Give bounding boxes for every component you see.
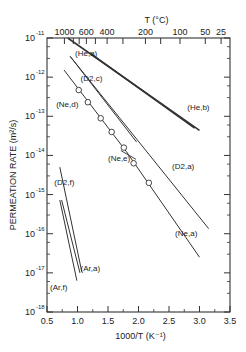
series-label: (He,b)	[187, 103, 210, 112]
data-point-marker	[121, 145, 127, 151]
y-tick-exponent: -13	[36, 108, 45, 114]
series-label: (D2,a)	[172, 162, 195, 171]
x-tick-label: 1.0	[71, 316, 84, 326]
y-axis-label: PERMEATION RATE (m²/s)	[8, 120, 18, 231]
series-label: (D2,f)	[54, 178, 74, 187]
y-tick-exponent: -17	[36, 265, 45, 271]
permeation-chart: 0.51.01.52.02.53.03.51000/T (K⁻¹)10-1110…	[0, 0, 246, 352]
series-label: (He,a)	[75, 49, 98, 58]
series-line	[62, 200, 80, 273]
data-point-marker	[146, 180, 152, 186]
data-point-marker	[76, 87, 82, 93]
y-tick-label: 10	[25, 190, 35, 200]
data-point-marker	[109, 129, 115, 135]
plot-labels: (He,a)(He,b)(D2,c)(D2,a)(Ne,d)(Ne,e)(Ne,…	[50, 49, 210, 293]
x-tick-label: 0.5	[41, 316, 54, 326]
series-label: (D2,c)	[81, 74, 103, 83]
series-label: (Ar,f)	[50, 283, 68, 292]
series-line	[90, 53, 195, 128]
y-tick-label: 10	[25, 229, 35, 239]
y-tick-exponent: -18	[36, 304, 45, 310]
top-axis-label: T (°C)	[145, 15, 169, 25]
top-tick-label: 400	[100, 27, 115, 37]
y-tick-label: 10	[25, 150, 35, 160]
top-tick-label: 200	[138, 27, 153, 37]
x-tick-label: 3.0	[193, 316, 206, 326]
x-axis-label: 1000/T (K⁻¹)	[115, 331, 165, 341]
y-tick-exponent: -11	[36, 30, 45, 36]
series-line	[60, 200, 77, 281]
series-label: (Ne,e)	[108, 154, 131, 163]
data-point-marker	[98, 115, 104, 121]
top-tick-label: 50	[200, 27, 210, 37]
y-tick-label: 10	[25, 268, 35, 278]
data-point-marker	[85, 99, 91, 105]
series-label: (Ar,a)	[81, 264, 101, 273]
y-tick-label: 10	[25, 33, 35, 43]
data-point-marker	[131, 160, 137, 166]
y-tick-exponent: -14	[36, 147, 45, 153]
y-tick-exponent: -16	[36, 226, 45, 232]
series-label: (Ne,d)	[56, 100, 79, 109]
y-tick-exponent: -12	[36, 69, 45, 75]
x-tick-label: 2.5	[163, 316, 176, 326]
plot-axes: 0.51.01.52.02.53.03.51000/T (K⁻¹)10-1110…	[8, 15, 236, 341]
top-tick-label: 25	[216, 27, 226, 37]
y-tick-label: 10	[25, 307, 35, 317]
x-tick-label: 3.5	[224, 316, 237, 326]
y-tick-label: 10	[25, 111, 35, 121]
x-tick-label: 1.5	[102, 316, 115, 326]
top-tick-label: 1000	[54, 27, 74, 37]
series-label: (Ne,a)	[175, 229, 198, 238]
x-tick-label: 2.0	[132, 316, 145, 326]
y-tick-exponent: -15	[36, 187, 45, 193]
top-tick-label: 100	[172, 27, 187, 37]
top-tick-label: 600	[79, 27, 94, 37]
y-tick-label: 10	[25, 72, 35, 82]
